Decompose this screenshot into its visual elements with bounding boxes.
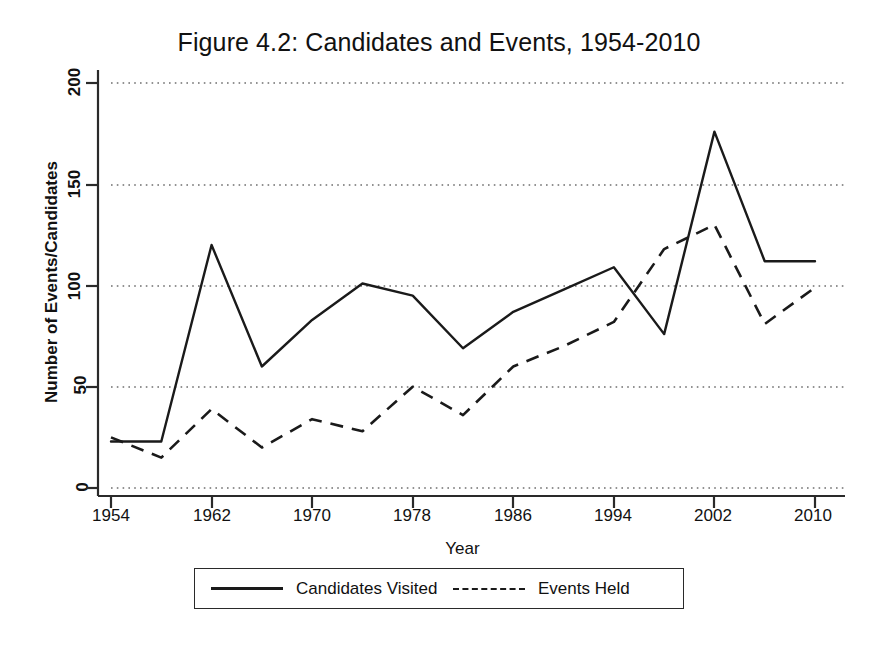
legend-entry-candidates-visited: Candidates Visited bbox=[211, 569, 437, 608]
x-axis-ticks bbox=[111, 496, 815, 508]
legend-entry-events-held: Events Held bbox=[453, 569, 630, 608]
dashed-line-key-icon bbox=[453, 588, 525, 590]
gridlines bbox=[111, 83, 845, 488]
legend-label-candidates-visited: Candidates Visited bbox=[296, 579, 437, 599]
axis-lines bbox=[98, 70, 845, 496]
chart-legend: Candidates Visited Events Held bbox=[194, 568, 684, 609]
y-axis-ticks bbox=[86, 83, 98, 488]
solid-line-key-icon bbox=[211, 587, 283, 589]
legend-label-events-held: Events Held bbox=[538, 579, 630, 599]
figure-container: Figure 4.2: Candidates and Events, 1954-… bbox=[0, 0, 878, 645]
x-axis-title: Year bbox=[110, 539, 815, 559]
